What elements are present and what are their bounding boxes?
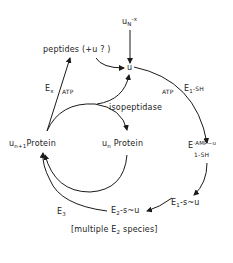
- node-rest: -s~u: [120, 206, 140, 215]
- node-subscript: 2: [116, 210, 120, 216]
- arrow-e1amp-to-e1su: [194, 163, 207, 195]
- node-un1-protein: un+1Protein: [9, 139, 56, 149]
- node-peptides: peptides (+u ? ): [43, 45, 111, 54]
- label-e1-sh: E1-SH: [184, 84, 204, 94]
- node-e1-s-u: E1-s~u: [171, 198, 200, 208]
- label-subscript: 1: [189, 88, 193, 94]
- footnote-multiple-e2: [multiple E2 species]: [71, 225, 158, 235]
- node-ubiquitin: u: [127, 63, 132, 72]
- label-ex-atp: ATP: [62, 87, 74, 96]
- label-subscript: x: [50, 88, 53, 94]
- node-subscript: N: [127, 21, 131, 27]
- node-line2: -SH: [198, 151, 209, 158]
- footnote-open: [multiple E: [71, 225, 117, 234]
- label-rest: -SH: [193, 85, 204, 92]
- node-superscript: -x: [132, 16, 138, 22]
- arrow-un-to-un1: [45, 155, 127, 192]
- label-atp: ATP: [162, 87, 174, 96]
- label-subscript: 3: [62, 211, 66, 217]
- label-ex: Ex: [45, 84, 54, 94]
- node-rest: Protein: [114, 139, 143, 148]
- node-subscript: n: [107, 143, 111, 149]
- footnote-close: species]: [120, 225, 157, 234]
- node-e1-amp-u-line2: 1-SH: [194, 150, 209, 159]
- node-e2-s-u: E2-s~u: [111, 206, 140, 216]
- node-superscript: ·AMP~u: [193, 140, 216, 146]
- node-free-ubiquitin: uN-x: [122, 17, 137, 27]
- arrow-e1su-to-e2su: [147, 198, 172, 211]
- node-rest: Protein: [26, 139, 55, 148]
- node-rest: -s~u: [180, 198, 200, 207]
- diagram-arrows: [0, 0, 233, 263]
- label-isopeptidase: isopeptidase: [109, 103, 162, 112]
- footnote-subscript: 2: [117, 229, 121, 235]
- arrow-peptides-to-u: [96, 58, 124, 68]
- node-un-protein: un Protein: [102, 139, 143, 149]
- node-subscript: n+1: [14, 143, 26, 149]
- node-subscript: 1: [176, 202, 180, 208]
- label-e3: E3: [57, 207, 66, 217]
- arrow-isopeptidase-to-u: [97, 75, 129, 104]
- arrow-e2su-to-un1: [43, 153, 107, 211]
